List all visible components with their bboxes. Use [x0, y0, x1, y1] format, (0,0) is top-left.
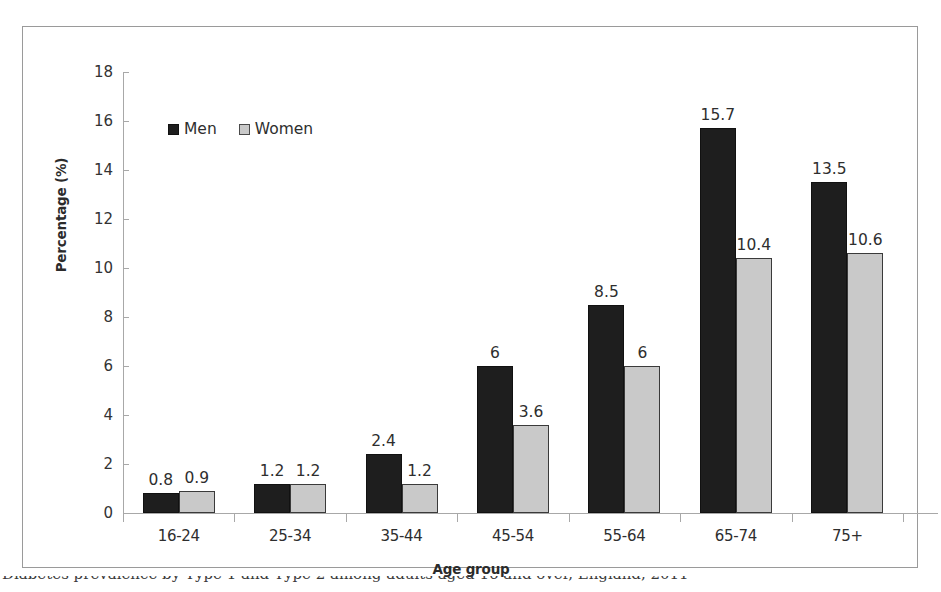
x-tick-mark	[123, 513, 124, 522]
bar-group: 1.21.2	[254, 72, 326, 513]
bar-value-label-men-65-74: 15.7	[691, 106, 745, 124]
y-tick-mark	[123, 366, 129, 367]
y-tick-label: 6	[69, 357, 113, 375]
x-tick-mark	[457, 513, 458, 522]
y-tick-label: 12	[69, 210, 113, 228]
x-category-label-16-24: 16-24	[123, 527, 234, 545]
y-tick-mark	[123, 121, 129, 122]
y-tick-mark	[123, 219, 129, 220]
y-tick-label: 4	[69, 406, 113, 424]
bar-women-35-44[interactable]	[402, 484, 438, 513]
y-tick-label: 16	[69, 112, 113, 130]
bar-value-label-men-55-64: 8.5	[579, 283, 633, 301]
figure-caption-strip: Diabetes prevalence by Type 1 and Type 2…	[0, 576, 941, 592]
y-tick-mark	[123, 72, 129, 73]
x-tick-mark	[903, 513, 904, 522]
bar-value-label-men-45-54: 6	[468, 344, 522, 362]
bar-women-75+[interactable]	[847, 253, 883, 513]
bar-value-label-women-16-24: 0.9	[170, 469, 224, 487]
x-category-label-25-34: 25-34	[234, 527, 345, 545]
x-tick-mark	[792, 513, 793, 522]
bar-group: 2.41.2	[366, 72, 438, 513]
legend-swatch-women-icon	[239, 124, 250, 135]
x-tick-mark	[234, 513, 235, 522]
bar-value-label-women-65-74: 10.4	[727, 236, 781, 254]
y-tick-mark	[123, 170, 129, 171]
chart-frame: Percentage (%) 024681012141618 0.80.91.2…	[22, 26, 918, 568]
y-axis-title: Percentage (%)	[53, 125, 69, 305]
bar-men-25-34[interactable]	[254, 484, 290, 513]
bar-women-45-54[interactable]	[513, 425, 549, 513]
legend-item-men[interactable]: Men	[168, 120, 217, 138]
x-axis-line	[123, 513, 938, 514]
bar-group: 13.510.6	[811, 72, 883, 513]
legend-label-men: Men	[184, 120, 217, 138]
bar-group: 0.80.9	[143, 72, 215, 513]
x-category-label-55-64: 55-64	[569, 527, 680, 545]
bar-value-label-women-45-54: 3.6	[504, 403, 558, 421]
bar-group: 63.6	[477, 72, 549, 513]
bar-value-label-women-75+: 10.6	[838, 231, 892, 249]
y-axis-line	[123, 72, 124, 513]
x-category-label-45-54: 45-54	[457, 527, 568, 545]
x-category-label-35-44: 35-44	[346, 527, 457, 545]
x-category-label-75+: 75+	[792, 527, 903, 545]
y-tick-label: 10	[69, 259, 113, 277]
y-tick-label: 2	[69, 455, 113, 473]
legend-item-women[interactable]: Women	[239, 120, 313, 138]
legend-label-women: Women	[255, 120, 313, 138]
bar-men-16-24[interactable]	[143, 493, 179, 513]
x-category-label-65-74: 65-74	[680, 527, 791, 545]
y-tick-label: 0	[69, 504, 113, 522]
bar-value-label-women-25-34: 1.2	[281, 462, 335, 480]
bar-group: 8.56	[588, 72, 660, 513]
y-tick-label: 14	[69, 161, 113, 179]
x-tick-mark	[569, 513, 570, 522]
bar-group: 15.710.4	[700, 72, 772, 513]
legend-swatch-men-icon	[168, 124, 179, 135]
bar-men-45-54[interactable]	[477, 366, 513, 513]
bar-value-label-women-55-64: 6	[615, 344, 669, 362]
bar-men-55-64[interactable]	[588, 305, 624, 513]
y-tick-mark	[123, 317, 129, 318]
y-tick-mark	[123, 464, 129, 465]
x-axis-title: Age group	[23, 561, 919, 577]
chart-legend: Men Women	[168, 120, 313, 138]
bar-men-65-74[interactable]	[700, 128, 736, 513]
figure-caption: Diabetes prevalence by Type 1 and Type 2…	[2, 576, 689, 583]
x-tick-mark	[346, 513, 347, 522]
bar-value-label-men-75+: 13.5	[802, 160, 856, 178]
y-tick-mark	[123, 268, 129, 269]
bar-women-55-64[interactable]	[624, 366, 660, 513]
bar-women-65-74[interactable]	[736, 258, 772, 513]
y-tick-label: 18	[69, 63, 113, 81]
y-tick-mark	[123, 415, 129, 416]
bar-women-16-24[interactable]	[179, 491, 215, 513]
bar-value-label-men-35-44: 2.4	[357, 432, 411, 450]
x-tick-mark	[680, 513, 681, 522]
bar-value-label-women-35-44: 1.2	[393, 462, 447, 480]
bar-women-25-34[interactable]	[290, 484, 326, 513]
y-tick-label: 8	[69, 308, 113, 326]
